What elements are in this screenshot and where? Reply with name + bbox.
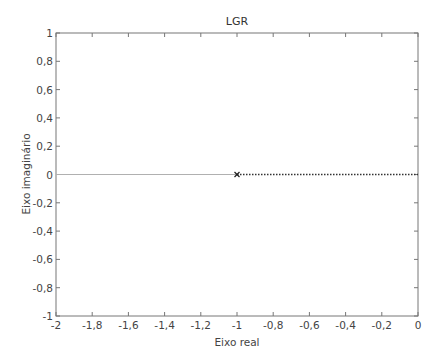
y-tick-label: 0,2 [36, 140, 53, 152]
y-tick-label: 0,4 [36, 112, 53, 124]
x-tick-label: 0 [415, 319, 422, 331]
y-tick-label: 0 [46, 169, 53, 181]
x-tick-label: -0,6 [299, 319, 320, 331]
y-tick-label: 1 [46, 27, 53, 39]
root-locus-chart: LGR -2-1,8-1,6-1,4-1,2-1-0,8-0,6-0,4-0,2… [0, 0, 441, 362]
y-tick-label: 0,6 [36, 84, 53, 96]
x-axis-label: Eixo real [214, 336, 259, 348]
x-tick-label: -1,2 [191, 319, 212, 331]
y-tick-label: -0,2 [33, 197, 54, 209]
y-tick-label: -1 [43, 310, 53, 322]
y-axis-label: Eixo imaginário [20, 133, 32, 214]
chart-title: LGR [226, 15, 249, 28]
x-tick-label: -1,8 [82, 319, 103, 331]
y-tick-label: -0,8 [33, 282, 54, 294]
y-tick-label: -0,4 [33, 225, 54, 237]
x-tick-label: -0,4 [335, 319, 356, 331]
x-tick-label: -1,6 [118, 319, 139, 331]
x-tick-label: -1 [232, 319, 242, 331]
x-tick-label: -0,2 [372, 319, 393, 331]
x-tick-label: -0,8 [263, 319, 284, 331]
y-tick-label: 0,8 [36, 55, 53, 67]
y-tick-label: -0,6 [33, 253, 54, 265]
x-tick-label: -1,4 [154, 319, 175, 331]
